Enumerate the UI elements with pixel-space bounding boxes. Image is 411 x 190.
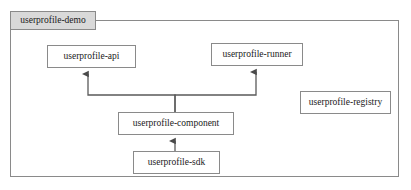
package-tab[interactable]: userprofile-demo	[10, 11, 96, 30]
node-label: userprofile-runner	[222, 50, 291, 60]
diagram-canvas: userprofile-demo userprofile-api userpro…	[0, 0, 411, 190]
node-userprofile-registry[interactable]: userprofile-registry	[300, 91, 391, 114]
node-label: userprofile-sdk	[148, 158, 206, 168]
node-userprofile-component[interactable]: userprofile-component	[118, 112, 234, 135]
node-userprofile-api[interactable]: userprofile-api	[47, 45, 136, 68]
node-label: userprofile-registry	[309, 98, 382, 108]
node-userprofile-runner[interactable]: userprofile-runner	[211, 43, 303, 66]
node-label: userprofile-api	[64, 52, 120, 62]
node-userprofile-sdk[interactable]: userprofile-sdk	[133, 151, 220, 174]
node-label: userprofile-component	[133, 119, 220, 129]
package-tab-label: userprofile-demo	[20, 16, 85, 26]
